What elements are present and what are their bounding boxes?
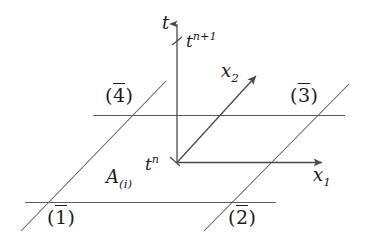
t-upper-exponent: n+1 [193, 30, 217, 43]
t-axis-label-text: t [162, 12, 169, 33]
tag-4-close-paren: ) [126, 84, 133, 106]
figure-canvas: t tn+1 tn x1 x2 A(i) (1) (2) (3) (4) [0, 0, 365, 248]
tag-4-numeral: 4 [112, 84, 125, 106]
t-lower-exponent: n [152, 153, 159, 166]
boundary-tag-1: (1) [47, 208, 75, 227]
x2-axis-base: x [221, 60, 231, 81]
t-lower-base: t [145, 154, 152, 174]
tag-2-numeral: 2 [235, 206, 248, 228]
t-upper-level-label: tn+1 [186, 31, 217, 50]
boundary-tag-4: (4) [105, 86, 133, 105]
tag-1-numeral: 1 [54, 206, 67, 228]
boundary-tag-3: (3) [290, 86, 318, 105]
boundary-tag-2: (2) [228, 208, 256, 227]
right-slant-line [204, 84, 349, 231]
tag-1-close-paren: ) [68, 206, 75, 228]
t-lower-level-label: tn [145, 154, 159, 173]
area-label-subscript: (i) [119, 177, 132, 191]
x1-axis-base: x [313, 164, 323, 185]
x1-axis-label: x1 [313, 166, 331, 188]
tag-3-close-paren: ) [311, 84, 318, 106]
t-upper-base: t [186, 31, 193, 51]
x2-axis-subscript: 2 [231, 71, 239, 85]
x1-axis-subscript: 1 [323, 175, 331, 189]
tag-2-close-paren: ) [249, 206, 256, 228]
tag-3-numeral: 3 [297, 84, 310, 106]
t-axis-label: t [162, 14, 169, 32]
x2-axis-label: x2 [221, 62, 239, 84]
x2-axis-line [177, 76, 256, 163]
area-label: A(i) [106, 168, 132, 190]
area-label-base: A [106, 166, 119, 187]
